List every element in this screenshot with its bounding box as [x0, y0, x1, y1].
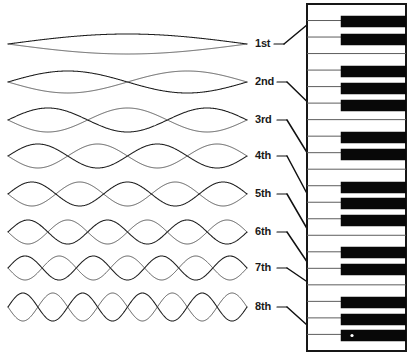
- harmonic-label-6: 6th: [255, 225, 271, 237]
- black-key[interactable]: [341, 100, 406, 111]
- harmonic-label-7: 7th: [255, 261, 271, 273]
- black-key[interactable]: [341, 314, 406, 325]
- piano-keyboard[interactable]: [307, 4, 406, 351]
- harmonic-label-5: 5th: [255, 187, 271, 199]
- diagram-canvas: 1st2nd3rd4th5th6th7th8th: [0, 0, 410, 355]
- harmonic-label-3: 3rd: [255, 113, 272, 125]
- black-key[interactable]: [341, 215, 406, 226]
- black-key[interactable]: [341, 132, 406, 143]
- black-key[interactable]: [341, 149, 406, 160]
- black-key[interactable]: [341, 34, 406, 45]
- black-key[interactable]: [341, 83, 406, 94]
- black-key[interactable]: [341, 264, 406, 275]
- black-key[interactable]: [341, 247, 406, 258]
- black-key[interactable]: [341, 297, 406, 308]
- black-key[interactable]: [341, 198, 406, 209]
- harmonic-label-2: 2nd: [255, 75, 274, 87]
- harmonics-piano-figure: 1st2nd3rd4th5th6th7th8th: [0, 0, 410, 355]
- marked-key-dot: [350, 334, 353, 337]
- harmonic-label-1: 1st: [255, 37, 271, 49]
- harmonic-label-8: 8th: [255, 300, 271, 312]
- black-key[interactable]: [341, 182, 406, 193]
- black-key[interactable]: [341, 66, 406, 77]
- harmonic-label-4: 4th: [255, 149, 271, 161]
- black-key[interactable]: [341, 16, 406, 27]
